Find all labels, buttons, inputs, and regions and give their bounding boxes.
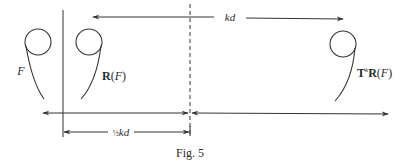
top-dimension-arrow: kd (93, 11, 343, 23)
shape-R-F: R(F) (76, 29, 126, 99)
bottom-arrow-label: ½kd (113, 126, 130, 138)
top-arrow-label: kd (225, 11, 236, 23)
middle-dimension-arrows (43, 113, 388, 114)
figure-caption: Fig. 5 (176, 146, 204, 160)
shape-F: F (16, 29, 51, 99)
shape-F-label: F (16, 64, 25, 78)
shape-Tk-R-F: TkR(F) (330, 31, 392, 101)
shape-Tk-R-F-label: TkR(F) (357, 66, 392, 80)
diagram-figure: kd ½kd F R(F) (0, 0, 406, 165)
bottom-dimension-arrow: ½kd (64, 126, 190, 138)
shape-R-F-label: R(F) (102, 69, 126, 83)
